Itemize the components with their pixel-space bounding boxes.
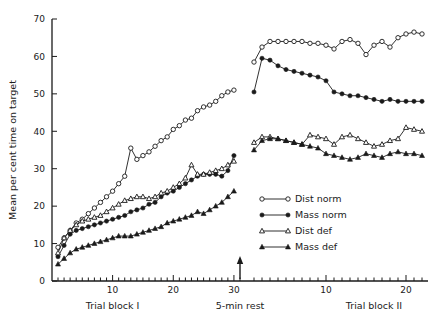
- chart-container: 010203040506070Mean per cent time on tar…: [0, 0, 437, 325]
- rest-arrow-head: [237, 256, 243, 264]
- data-point: [340, 134, 345, 139]
- data-point: [252, 90, 256, 94]
- data-point: [300, 39, 304, 43]
- data-point: [147, 196, 152, 201]
- data-point: [140, 194, 145, 199]
- legend-item-mass-norm[interactable]: Mass norm: [260, 209, 347, 220]
- x-tick-label: 10: [320, 285, 332, 295]
- data-point: [214, 99, 218, 103]
- legend-marker: [260, 228, 265, 233]
- data-point: [348, 132, 353, 137]
- data-point: [116, 181, 120, 185]
- data-point: [110, 205, 115, 210]
- x-tick-label: 20: [400, 285, 412, 295]
- data-point: [123, 174, 127, 178]
- data-point: [388, 45, 392, 49]
- data-point: [348, 37, 352, 41]
- x-tick-label: 30: [228, 285, 240, 295]
- data-point: [316, 134, 321, 139]
- data-point: [153, 144, 157, 148]
- data-point: [92, 223, 96, 227]
- data-point: [56, 250, 61, 255]
- data-point: [123, 213, 127, 217]
- data-point: [104, 219, 108, 223]
- data-point: [420, 32, 424, 36]
- data-point: [348, 94, 352, 98]
- legend-label: Dist def: [295, 225, 333, 236]
- data-point: [412, 127, 417, 132]
- legend-item-dist-def[interactable]: Dist def: [260, 225, 333, 236]
- data-point: [396, 99, 400, 103]
- data-point: [68, 250, 73, 255]
- data-point: [232, 154, 236, 158]
- x-tick-label: 10: [107, 285, 119, 295]
- data-point: [364, 151, 369, 156]
- data-point: [213, 168, 218, 173]
- data-point: [104, 209, 109, 214]
- y-tick-label: 60: [34, 52, 46, 62]
- data-point: [412, 99, 416, 103]
- legend-item-mass-def[interactable]: Mass def: [260, 241, 338, 252]
- legend: Dist normMass normDist defMass def: [260, 193, 347, 252]
- series-line-block1: [58, 156, 234, 257]
- data-point: [195, 209, 200, 214]
- series-dist-norm: [56, 30, 424, 250]
- data-point: [165, 188, 170, 193]
- data-point: [332, 90, 336, 94]
- data-point: [340, 39, 344, 43]
- data-point: [86, 217, 91, 222]
- data-point: [129, 146, 133, 150]
- data-point: [412, 30, 416, 34]
- data-point: [404, 99, 408, 103]
- data-point: [380, 39, 384, 43]
- data-point: [252, 140, 257, 145]
- data-point: [189, 116, 193, 120]
- data-point: [231, 188, 236, 193]
- data-point: [134, 194, 139, 199]
- data-point: [207, 103, 211, 107]
- data-point: [207, 207, 212, 212]
- data-point: [129, 210, 133, 214]
- data-point: [420, 99, 424, 103]
- data-point: [80, 227, 84, 231]
- legend-marker: [286, 228, 291, 233]
- data-point: [404, 32, 408, 36]
- legend-marker: [260, 197, 264, 201]
- data-point: [364, 140, 369, 145]
- data-point: [308, 132, 313, 137]
- data-point: [252, 60, 256, 64]
- y-tick-label: 10: [34, 239, 46, 249]
- data-point: [98, 200, 102, 204]
- x-tick-label: 20: [168, 285, 180, 295]
- data-point: [324, 79, 328, 83]
- data-point: [404, 125, 409, 130]
- series-line-block2: [254, 128, 422, 147]
- y-tick-label: 0: [39, 276, 45, 286]
- data-point: [159, 138, 163, 142]
- data-point: [159, 190, 164, 195]
- series-mass-def: [56, 136, 425, 266]
- data-point: [316, 75, 320, 79]
- data-point: [153, 194, 158, 199]
- data-point: [396, 149, 401, 154]
- legend-item-dist-norm[interactable]: Dist norm: [260, 193, 342, 204]
- y-axis-label: Mean per cent time on target: [7, 80, 18, 220]
- data-point: [189, 178, 193, 182]
- data-point: [153, 200, 157, 204]
- data-point: [284, 67, 288, 71]
- data-point: [324, 136, 329, 141]
- data-point: [171, 127, 175, 131]
- data-point: [356, 41, 360, 45]
- data-point: [232, 88, 236, 92]
- data-point: [201, 172, 206, 177]
- data-point: [183, 175, 188, 180]
- data-point: [135, 157, 139, 161]
- data-point: [372, 144, 377, 149]
- legend-marker: [286, 197, 290, 201]
- legend-marker: [260, 213, 264, 217]
- line-chart: 010203040506070Mean per cent time on tar…: [0, 0, 437, 325]
- data-point: [356, 136, 361, 141]
- data-point: [388, 138, 393, 143]
- data-point: [380, 142, 385, 147]
- data-point: [128, 196, 133, 201]
